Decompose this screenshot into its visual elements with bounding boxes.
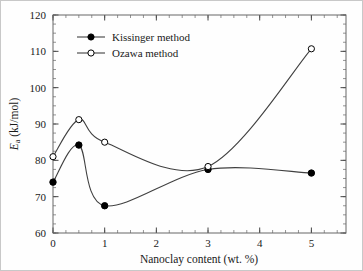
x-axis-major-ticks xyxy=(53,15,311,233)
y-tick-label: 100 xyxy=(30,82,47,94)
legend-marker-ozawa xyxy=(88,50,94,56)
y-axis-title-units: (kJ/mol) xyxy=(8,98,21,140)
x-axis-tick-labels: 012345 xyxy=(50,237,314,249)
legend-label-ozawa: Ozawa method xyxy=(112,47,179,59)
x-tick-label: 1 xyxy=(102,237,108,249)
data-point-marker xyxy=(50,179,56,185)
x-tick-label: 2 xyxy=(154,237,160,249)
series-markers-kissinger xyxy=(50,142,315,209)
plot-frame xyxy=(53,15,346,233)
y-axis-tick-labels: 60708090100110120 xyxy=(30,9,47,239)
data-point-marker xyxy=(308,46,314,52)
series-line-kissinger xyxy=(53,145,311,206)
y-tick-label: 90 xyxy=(35,118,47,130)
data-point-marker xyxy=(50,154,56,160)
y-tick-label: 110 xyxy=(30,45,47,57)
data-point-marker xyxy=(205,163,211,169)
y-tick-label: 60 xyxy=(35,227,47,239)
chart-canvas: 012345 60708090100110120 Kissinger metho… xyxy=(1,1,363,271)
chart-figure: 012345 60708090100110120 Kissinger metho… xyxy=(0,0,363,271)
x-tick-label: 3 xyxy=(205,237,211,249)
data-point-marker xyxy=(76,117,82,123)
series-markers-ozawa xyxy=(50,46,315,170)
legend-label-kissinger: Kissinger method xyxy=(112,31,190,43)
y-axis-title-symbol: E xyxy=(8,143,20,151)
x-tick-label: 4 xyxy=(257,237,263,249)
series-line-ozawa xyxy=(53,49,311,171)
y-tick-label: 120 xyxy=(30,9,47,21)
y-axis-title: Ea (kJ/mol) xyxy=(8,98,22,152)
x-axis-title: Nanoclay content (wt. %) xyxy=(140,253,258,266)
svg-text:Ea (kJ/mol): Ea (kJ/mol) xyxy=(8,98,22,152)
data-point-marker xyxy=(102,139,108,145)
y-axis-major-ticks xyxy=(53,15,346,233)
data-point-marker xyxy=(76,142,82,148)
x-tick-label: 5 xyxy=(309,237,315,249)
data-point-marker xyxy=(101,203,107,209)
data-point-marker xyxy=(308,170,314,176)
y-axis-minor-ticks xyxy=(53,15,346,233)
x-tick-label: 0 xyxy=(50,237,56,249)
legend-marker-kissinger xyxy=(88,34,94,40)
y-tick-label: 80 xyxy=(35,154,47,166)
chart-legend: Kissinger method Ozawa method xyxy=(77,31,190,59)
y-tick-label: 70 xyxy=(35,191,47,203)
